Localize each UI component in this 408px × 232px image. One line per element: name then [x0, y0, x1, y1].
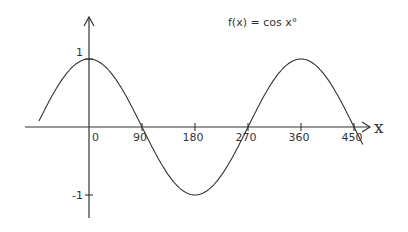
- x-tick-label: 0: [92, 131, 99, 144]
- x-axis-label: x: [374, 117, 384, 137]
- y-tick-label: -1: [72, 189, 83, 202]
- chart-title: f(x) = cos x°: [228, 16, 297, 29]
- ticks: 0901802703604501-1: [72, 46, 362, 202]
- x-tick-label: 180: [183, 131, 204, 144]
- x-tick-label: 270: [236, 131, 257, 144]
- y-tick-label: 1: [76, 46, 83, 59]
- x-tick-label: 360: [289, 131, 310, 144]
- cosine-chart: f(x) = cos x° x 0901802703604501-1: [0, 0, 408, 232]
